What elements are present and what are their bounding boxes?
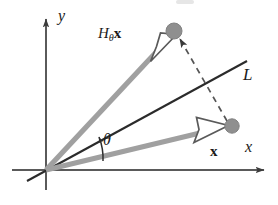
- vector-h-theta-x: [46, 33, 177, 170]
- figure-canvas: [0, 0, 278, 205]
- hollow-arrowhead-x: [194, 118, 229, 143]
- point-hx-endpoint: [166, 23, 182, 39]
- x-vector-text: x: [210, 143, 218, 159]
- y-axis-label: y: [58, 8, 65, 24]
- h-theta-x-label: Hθx: [98, 26, 121, 43]
- line-L-label: L: [243, 66, 252, 83]
- reflection-dashed-line: [180, 39, 227, 121]
- h-theta-x-vector: x: [114, 25, 122, 41]
- x-axis-label: x: [245, 139, 252, 155]
- h-theta-x-head: H: [98, 25, 109, 41]
- x-vector-label: x: [210, 144, 218, 159]
- theta-label: θ: [103, 132, 111, 148]
- figure-container: y x L θ Hθx x: [0, 0, 278, 205]
- point-x-endpoint: [225, 119, 239, 133]
